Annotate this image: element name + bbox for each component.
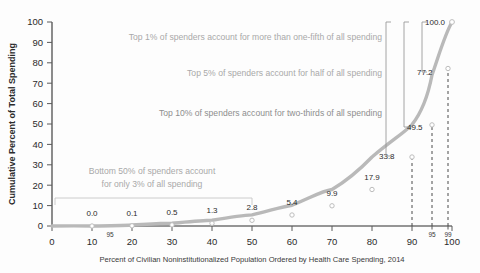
data-label-60: 5.4 [286,198,298,207]
annotation-top-10-percent: Top 10% of spenders account for two-thir… [159,108,382,118]
data-label-70: 9.9 [326,189,338,198]
y-tick-label: 30 [32,159,43,170]
x-axis-title: Percent of Civilian Noninstitutionalized… [99,255,404,264]
y-tick-label: 0 [38,220,43,231]
x-axis-tick-labels: 0 10 20 30 40 50 60 70 80 90 100 95 99 9… [49,231,460,247]
data-point-marker [250,218,254,222]
y-tick-label: 100 [27,16,43,27]
x-tick-label: 50 [247,236,258,247]
data-point-marker [170,223,174,227]
cumulative-spending-curve [52,22,452,226]
data-label-10: 0.0 [86,209,98,218]
annotation-top-5-percent: Top 5% of spenders account for half of a… [187,68,382,78]
bracket-top-10-percent [386,22,391,156]
data-point-markers [90,20,455,229]
data-label-80: 17.9 [364,173,380,182]
x-minor-tick-label-95: 95 [428,231,436,238]
annotation-bottom-50-percent-line1: Bottom 50% of spenders account [89,166,216,176]
footnote-marker: 95 [106,231,114,238]
y-tick-label: 20 [32,180,43,191]
data-label-99: 77.2 [417,68,433,77]
data-point-marker [410,155,414,159]
data-label-30: 0.5 [166,208,178,217]
y-axis-title: Cumulative Percent of Total Spending [7,43,17,205]
data-point-marker [130,224,134,228]
y-axis-ticks [47,22,52,226]
y-tick-label: 80 [32,57,43,68]
data-point-marker [90,224,94,228]
annotation-bottom-50-percent-line2: for only 3% of all spending [102,179,203,189]
data-point-marker [330,204,334,208]
x-tick-label: 60 [287,236,298,247]
data-label-90: 33.8 [379,152,395,161]
data-point-marker [450,20,455,25]
y-tick-label: 40 [32,139,43,150]
data-point-marker [446,66,450,70]
y-tick-label: 90 [32,37,43,48]
x-tick-label: 20 [127,236,138,247]
data-label-20: 0.1 [126,209,138,218]
data-point-marker [430,123,434,127]
bracket-top-1-percent [422,22,427,72]
annotation-top-1-percent: Top 1% of spenders account for more than… [129,32,382,42]
y-tick-label: 70 [32,78,43,89]
x-tick-label: 40 [207,236,218,247]
y-tick-label: 50 [32,118,43,129]
data-label-100: 100.0 [425,18,446,27]
x-tick-label: 10 [87,236,98,247]
chart-container: 0 10 20 30 40 50 60 70 80 90 100 Cumulat… [0,0,480,273]
x-tick-label: 30 [167,236,178,247]
y-tick-label: 60 [32,98,43,109]
x-minor-tick-label-99: 99 [444,231,452,238]
data-point-marker [210,221,214,225]
annotations: Top 1% of spenders account for more than… [89,32,383,189]
axes [52,22,452,226]
x-tick-label: 0 [49,236,54,247]
cumulative-spending-chart: 0 10 20 30 40 50 60 70 80 90 100 Cumulat… [0,0,480,273]
bracket-bottom-50-percent [55,198,252,205]
data-point-marker [290,213,294,217]
bracket-top-5-percent [404,22,409,127]
x-tick-label: 80 [367,236,378,247]
y-tick-label: 10 [32,200,43,211]
data-label-40: 1.3 [206,206,218,215]
y-axis-tick-labels: 0 10 20 30 40 50 60 70 80 90 100 [27,16,43,231]
data-label-95: 49.5 [407,123,423,132]
reference-lines [412,70,448,226]
x-tick-label: 90 [407,236,418,247]
data-point-marker [370,187,374,191]
x-tick-label: 70 [327,236,338,247]
